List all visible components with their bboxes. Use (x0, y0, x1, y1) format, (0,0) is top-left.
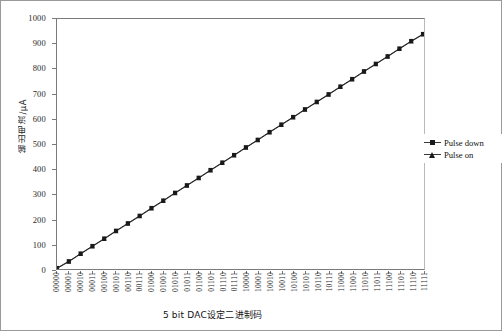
x-tick-label: 01010 (171, 272, 180, 292)
x-tick-label: 01110 (219, 272, 228, 291)
x-tick-label: 00110 (124, 272, 133, 292)
x-tick-label: 01001 (159, 272, 168, 292)
y-tick-label: 700 (33, 89, 46, 98)
y-axis-ticks: 01002003004005006007008009001000 (0, 0, 52, 290)
x-tick-label: 01000 (147, 272, 156, 292)
y-tick-label: 800 (33, 64, 46, 73)
x-tick-label: 01101 (207, 272, 216, 292)
legend-item[interactable]: Pulse on (424, 149, 500, 160)
x-tick-label: 10010 (266, 272, 275, 292)
x-tick-label: 00100 (100, 272, 109, 292)
y-tick-label: 300 (33, 190, 46, 199)
x-tick-label: 01100 (195, 272, 204, 292)
square-marker-icon-glyph (430, 140, 435, 145)
x-tick-label: 00000 (52, 272, 61, 292)
x-tick-label: 00010 (76, 272, 85, 292)
square-marker-icon (424, 138, 441, 147)
y-tick-label: 0 (42, 266, 46, 275)
x-tick-label: 10011 (278, 272, 287, 292)
x-tick-label: 11100 (385, 272, 394, 291)
triangle-marker-icon-glyph (429, 152, 435, 158)
y-tick-label: 200 (33, 215, 46, 224)
x-tick-label: 00111 (135, 272, 144, 291)
legend-label: Pulse down (444, 138, 484, 148)
x-tick-label: 10100 (290, 272, 299, 292)
y-tick-label: 900 (33, 39, 46, 48)
triangle-marker-icon (424, 150, 441, 159)
x-tick-label: 10111 (325, 272, 334, 291)
y-tick-label: 1000 (28, 14, 46, 23)
y-tick-label: 100 (33, 241, 46, 250)
x-tick-label: 10110 (314, 272, 323, 292)
x-tick-label: 11110 (409, 272, 418, 291)
x-tick-label: 11111 (420, 272, 429, 291)
x-tick-label: 11011 (373, 272, 382, 291)
x-tick-label: 11000 (337, 272, 346, 292)
x-tick-label: 00001 (64, 272, 73, 292)
legend-item[interactable]: Pulse down (424, 137, 500, 148)
plot-area (56, 18, 425, 270)
x-tick-label: 10001 (254, 272, 263, 292)
x-tick-label: 10101 (302, 272, 311, 292)
x-tick-label: 00011 (88, 272, 97, 292)
x-tick-label: 00101 (112, 272, 121, 292)
y-tick-label: 500 (33, 140, 46, 149)
x-tick-label: 11010 (361, 272, 370, 292)
chart-figure: 输出电流/μA 01002003004005006007008009001000… (0, 0, 503, 332)
x-axis-ticks: 0000000001000100001100100001010011000111… (56, 271, 425, 307)
x-tick-label: 11001 (349, 272, 358, 292)
y-tick-label: 400 (33, 165, 46, 174)
x-tick-label: 11101 (397, 272, 406, 291)
series-layer (57, 19, 424, 269)
x-tick-label: 10000 (242, 272, 251, 292)
legend: Pulse downPulse on (421, 134, 503, 163)
x-axis-title: 5 bit DAC设定二进制码 (0, 308, 425, 321)
x-tick-label: 01111 (230, 272, 239, 291)
x-tick-label: 01011 (183, 272, 192, 292)
legend-label: Pulse on (444, 150, 473, 160)
y-tick-label: 600 (33, 115, 46, 124)
